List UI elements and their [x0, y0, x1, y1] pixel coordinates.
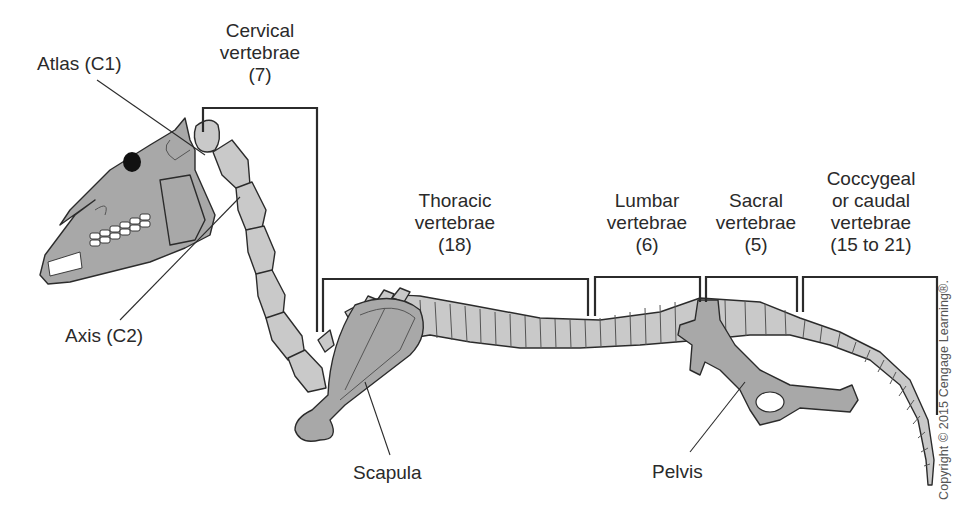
label-cervical-vertebrae: Cervical vertebrae (7): [200, 20, 320, 86]
copyright-notice: Copyright © 2015 Cengage Learning®.: [937, 280, 951, 500]
horse-spine-diagram: .bone { fill: #c9c9c9; stroke: #2b2b2b; …: [0, 0, 979, 528]
skeleton-illustration: .bone { fill: #c9c9c9; stroke: #2b2b2b; …: [0, 0, 979, 528]
spine-row: [345, 288, 934, 485]
label-pelvis: Pelvis: [652, 461, 703, 483]
leader-pelvis: [690, 382, 745, 452]
label-thoracic-vertebrae: Thoracic vertebrae (18): [395, 190, 515, 256]
label-coccygeal-vertebrae: Coccygeal or caudal vertebrae (15 to 21): [806, 168, 936, 256]
label-axis: Axis (C2): [65, 325, 143, 347]
label-lumbar-vertebrae: Lumbar vertebrae (6): [587, 190, 707, 256]
cervical-vertebrae-bones: [194, 120, 334, 392]
label-sacral-vertebrae: Sacral vertebrae (5): [696, 190, 816, 256]
label-scapula: Scapula: [353, 462, 422, 484]
label-atlas: Atlas (C1): [37, 53, 121, 75]
skull: [40, 118, 215, 284]
leader-scapula: [365, 382, 390, 455]
